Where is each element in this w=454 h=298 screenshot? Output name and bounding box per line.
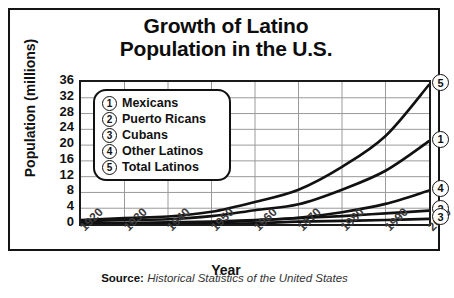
y-tick-label: 12: [48, 170, 74, 180]
y-tick-label: 8: [48, 185, 74, 195]
legend-item: 1Mexicans: [102, 95, 223, 111]
legend-label: Total Latinos: [122, 160, 199, 174]
series-end-label-5: 5: [432, 74, 449, 91]
series-end-label-4: 4: [432, 180, 449, 197]
legend-marker-3: 3: [102, 128, 117, 143]
y-tick-label: 4: [48, 201, 74, 211]
chart-legend: 1Mexicans2Puerto Ricans3Cubans4Other Lat…: [93, 89, 231, 181]
y-axis-ticks: 36322824201612840: [44, 10, 74, 253]
legend-item: 5Total Latinos: [102, 159, 223, 175]
y-tick-label: 24: [48, 122, 74, 132]
legend-item: 4Other Latinos: [102, 143, 223, 159]
legend-marker-2: 2: [102, 112, 117, 127]
chart-title-line-1: Growth of Latino: [10, 14, 442, 37]
source-prefix: Source:: [101, 272, 144, 284]
legend-marker-1: 1: [102, 96, 117, 111]
chart-title: Growth of Latino Population in the U.S.: [10, 14, 442, 60]
y-tick-label: 28: [48, 107, 74, 117]
source-text: Historical Statistics of the United Stat…: [147, 272, 348, 284]
y-axis-label: Population (millions): [22, 33, 38, 183]
series-end-label-3: 3: [432, 208, 449, 225]
chart-title-line-2: Population in the U.S.: [10, 37, 442, 60]
legend-marker-5: 5: [102, 160, 117, 175]
y-tick-label: 36: [48, 75, 74, 85]
legend-label: Cubans: [122, 128, 168, 142]
legend-marker-4: 4: [102, 144, 117, 159]
chart-frame: Growth of Latino Population in the U.S. …: [8, 8, 440, 251]
legend-item: 2Puerto Ricans: [102, 111, 223, 127]
x-axis-ticks: 192019301940195019601970198019902000: [79, 224, 431, 264]
legend-label: Other Latinos: [122, 144, 203, 158]
legend-label: Mexicans: [122, 96, 178, 110]
y-tick-label: 20: [48, 138, 74, 148]
y-tick-label: 16: [48, 154, 74, 164]
source-note: Source: Historical Statistics of the Uni…: [0, 272, 449, 284]
y-tick-label: 32: [48, 91, 74, 101]
y-tick-label: 0: [48, 217, 74, 227]
legend-item: 3Cubans: [102, 127, 223, 143]
series-end-label-1: 1: [432, 131, 449, 148]
legend-label: Puerto Ricans: [122, 112, 206, 126]
